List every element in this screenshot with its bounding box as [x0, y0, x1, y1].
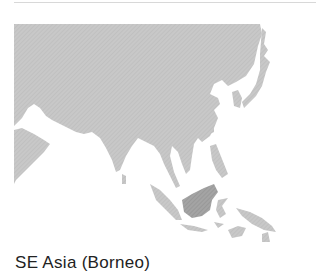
locator-map: [14, 24, 276, 242]
map-caption: SE Asia (Borneo): [15, 253, 150, 273]
mainland-asia: [14, 24, 262, 188]
top-divider: [14, 2, 316, 3]
borneo-highlight: [182, 184, 218, 218]
